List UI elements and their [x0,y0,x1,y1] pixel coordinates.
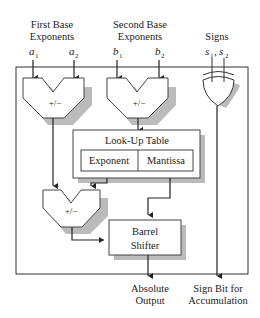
svg-text:2: 2 [161,52,165,60]
b2-label: b 2 [155,45,165,60]
barrel-label-1: Barrel [132,226,158,237]
a2-label: a 2 [69,45,79,60]
second-base-label-2: Exponents [118,31,162,42]
sign-bit-label-2: Accumulation [188,295,248,306]
svg-text:2: 2 [225,52,229,60]
barrel-label-2: Shifter [131,240,160,251]
lut-title: Look-Up Table [105,135,169,146]
second-base-label-1: Second Base [113,19,167,30]
lut-exponent: Exponent [89,155,129,166]
svg-text:1: 1 [35,52,39,60]
svg-text:,: , [214,45,217,57]
block-diagram: First Base Exponents Second Base Exponen… [0,0,260,318]
adder-1-label: +/− [49,98,62,108]
adder-3-label: +/− [65,206,78,216]
absolute-output-label-1: Absolute [131,283,169,294]
signs-label: Signs [205,31,228,42]
svg-text:s: s [219,45,223,57]
sign-bit-label-1: Sign Bit for [193,283,243,294]
svg-text:s: s [205,45,209,57]
adder-2-label: +/− [133,98,146,108]
xor-gate-arc [203,72,234,76]
svg-text:2: 2 [75,52,79,60]
b1-label: b 1 [113,45,123,60]
first-base-label-2: Exponents [30,31,74,42]
svg-text:1: 1 [119,52,123,60]
mantissa-to-barrel-arrow [148,178,170,215]
lut-mantissa: Mantissa [147,155,185,166]
a1-label: a 1 [29,45,39,60]
absolute-output-label-2: Output [135,295,164,306]
s1-s2-label: s 1 , s 2 [205,45,229,60]
first-base-label-1: First Base [31,19,74,30]
